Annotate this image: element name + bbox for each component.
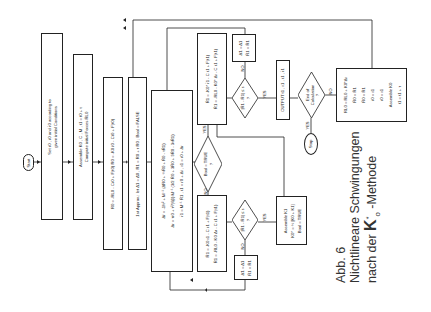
upper-check-text: |R̄1 - R̄1| ≤ ε <box>240 86 246 109</box>
assemble-line-2: Compute initial Forces R̄L0 <box>83 107 89 167</box>
final-update-line-4: ṙ0 = ṙ1 <box>367 77 376 113</box>
upper-update-line-2: R̄1 = R̄1 <box>244 40 251 55</box>
lower-residual-line-1: R̄1 = -K0 r1 - C ṙ1 + F(t1) <box>204 204 212 263</box>
bool-true-q: ? <box>208 152 214 176</box>
upper-residual-box: R̄1 = -K0* r̄1 - C ṙ1 + F(t1) R̄1 = -RL0… <box>197 33 227 125</box>
final-update-line-2: R̄0 = R̄1 <box>349 77 358 113</box>
bool-true-text: Bool = TRUE <box>203 152 209 176</box>
yes-label-lower: YES <box>262 213 267 221</box>
caption-symbol: K <box>362 219 379 231</box>
assemble-k1-line-2: K0* = ½ [K0 + K1] <box>288 204 295 238</box>
lower-check-text: |R̄1 - R̄1| ≤ ε <box>240 208 246 231</box>
end-calc-q: ? <box>314 85 319 106</box>
first-approx-box: 1st Approx.: let Δ̄1 = Δ̄0 , R̄1 = R̄0 +… <box>128 77 147 250</box>
caption-suffix: -Methode <box>365 156 379 212</box>
stop-label: Stop <box>308 140 314 149</box>
assemble-line-1: Assemble K0 , C , M , t1 = t0 + τ <box>78 107 84 167</box>
eq-velocity: Δ̇ṙ = -1/τ² + M⁻¹ (Δ̄R0 + ½R̄0 + R̄0 - τ… <box>159 134 168 227</box>
lower-residual-line-2: R̄1 = -RL0 - K0 Δr - C ṙ1 + F(t1) <box>212 204 220 263</box>
start-terminal: Start <box>23 154 34 171</box>
set-initial-conditions-box: Set r0 , ṙ0 and r̈0 according to given i… <box>41 33 63 220</box>
output-box: OUTPUT t1 , r1 , ṙ1 , r̈1 <box>276 60 290 120</box>
caption-sub: o <box>373 212 382 216</box>
upper-update-line-1: Δ̄1 = Δ̄1 <box>237 40 244 55</box>
no-label-upper: NO <box>240 66 245 72</box>
set-initial-line-2: given initial Conditions <box>52 99 58 154</box>
lower-update-line-2: R̄1 = R̄1 <box>246 260 253 275</box>
lower-convergence-decision: |R̄1 - R̄1| ≤ ε? <box>232 200 258 240</box>
integration-equations-box: Δ̇ṙ = -1/τ² + M⁻¹ (Δ̄R0 + ½R̄0 + R̄0 - τ… <box>151 90 193 272</box>
end-of-calculation-decision: End of Calculation ? <box>298 72 325 118</box>
upper-residual-line-1: R̄1 = -K0* r̄1 - C ṙ1 + F(t1) <box>204 49 212 109</box>
upper-residual-line-2: R̄1 = -RL0 - K0* Δr - C ṙ1 + F(t1) <box>212 49 220 109</box>
final-update-line-3: R̄0 = R̄1 <box>358 77 367 113</box>
figure-caption: Abb. 6 Nichtlineare Schwingungen nach de… <box>334 132 385 283</box>
lower-residual-box: R̄1 = -K0 r1 - C ṙ1 + F(t1) R̄1 = -RL0 -… <box>197 195 227 272</box>
caption-line-3: nach der K*o -Methode <box>362 132 385 283</box>
lower-update-box: Δ̄1 = Δ̄1 R̄1 = R̄1 <box>234 255 258 280</box>
stop-terminal: Stop <box>304 133 318 155</box>
upper-check-q: ? <box>245 86 251 109</box>
upper-update-box: Δ̄1 = Δ̄1 R̄1 = R̄1 <box>232 34 256 62</box>
final-update-line-5: r0 = r1 <box>376 77 385 113</box>
final-update-line-7: t1 = t1 + τ <box>394 77 403 113</box>
upper-convergence-decision: |R̄1 - R̄1| ≤ ε? <box>232 78 258 118</box>
lower-update-line-1: Δ̄1 = Δ̄1 <box>239 260 246 275</box>
first-approx-line: 1st Approx.: let Δ̄1 = Δ̄0 , R̄1 = R̄0 +… <box>135 111 141 216</box>
yes-label-upper: YES <box>262 90 267 98</box>
start-label: Start <box>26 158 32 167</box>
set-initial-line-1: Set r0 , ṙ0 and r̈0 according to <box>47 99 53 154</box>
final-update-box: RL0 = RL0 + K0*Δr R̄0 = R̄1 R̄0 = R̄1 ṙ0… <box>336 68 407 122</box>
assemble-k1-line-1: Assemble K1 <box>281 204 288 238</box>
assemble-matrices-box: Assemble K0 , C , M , t1 = t0 + τ Comput… <box>73 54 93 220</box>
assemble-k1-box: Assemble K1 K0* = ½ [K0 + K1] Bool = TRU… <box>276 196 307 245</box>
caption-line-1: Abb. 6 <box>334 132 348 283</box>
output-line: OUTPUT t1 , r1 , ṙ1 , r̈1 <box>280 68 286 111</box>
no-label-end: NO <box>328 89 333 95</box>
final-update-line-6: Assemble K0 <box>385 77 394 113</box>
eq-displacement: Δr = τṙ0 + τ²/(6β) M⁻¹ (3/2 R̄0 + 3R̄0 +… <box>168 134 177 227</box>
assemble-k1-line-3: Bool = TRUE <box>295 204 302 238</box>
yes-label-end: YES <box>305 121 310 129</box>
no-label-bool: NO <box>203 189 208 195</box>
final-update-line-1: RL0 = RL0 + K0*Δr <box>340 77 349 113</box>
eq-update: r̈1 = M⁻¹ R̄1 , ṙ1 = ṙ0 + Δṙ , r1 = r0 +… <box>177 134 186 227</box>
end-calc-line-1: End of <box>304 85 309 106</box>
flowchart-canvas: Start Set r0 , ṙ0 and r̈0 according to g… <box>0 0 431 312</box>
caption-prefix: nach der <box>365 231 379 283</box>
residual0-line: R0 = -RL0 - Cṙ0 + F(t0) R̄0 = -K0 r̄0 - … <box>110 118 116 208</box>
initial-residual-box: R0 = -RL0 - Cṙ0 + F(t0) R̄0 = -K0 r̄0 - … <box>103 77 123 250</box>
end-calc-line-2: Calculation <box>309 85 314 106</box>
caption-line-2: Nichtlineare Schwingungen <box>348 132 362 283</box>
bool-true-decision: Bool = TRUE? <box>194 136 222 192</box>
no-label-lower: NO <box>240 244 245 250</box>
caption-sup: * <box>365 217 372 220</box>
lower-check-q: ? <box>245 208 251 231</box>
yes-label-bool: YES <box>202 125 207 133</box>
